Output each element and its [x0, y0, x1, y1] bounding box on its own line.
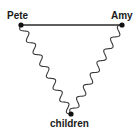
node-dot-children [68, 111, 73, 116]
edges [20, 25, 122, 114]
relationship-diagram: Pete Amy children [0, 0, 140, 134]
node-dot-pete [18, 22, 23, 27]
edge-amy-children [70, 25, 122, 114]
node-label-pete: Pete [7, 10, 29, 21]
nodes [18, 22, 124, 116]
edge-pete-children [20, 25, 71, 114]
node-label-amy: Amy [111, 10, 133, 21]
node-dot-amy [119, 22, 124, 27]
node-label-children: children [50, 118, 89, 129]
